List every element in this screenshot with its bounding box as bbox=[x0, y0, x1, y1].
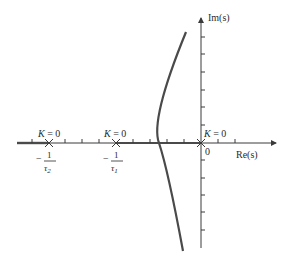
imag-axis-label: Im(s) bbox=[208, 12, 230, 24]
svg-text:τ1: τ1 bbox=[111, 163, 118, 175]
svg-text:1: 1 bbox=[114, 150, 119, 160]
origin-label: 0 bbox=[205, 146, 210, 157]
pole-label-tau2: − 1 τ2 bbox=[36, 150, 56, 175]
root-locus-diagram: K = 0 K = 0 K = 0 − 1 τ2 − 1 τ1 0 Re(s) … bbox=[0, 0, 288, 263]
k-label-origin: K = 0 bbox=[203, 128, 226, 139]
real-axis-label: Re(s) bbox=[236, 149, 258, 161]
svg-text:τ2: τ2 bbox=[44, 163, 51, 175]
svg-text:−: − bbox=[103, 153, 109, 164]
svg-text:−: − bbox=[36, 153, 42, 164]
k-label-tau1: K = 0 bbox=[103, 128, 126, 139]
svg-text:1: 1 bbox=[47, 150, 52, 160]
real-axis bbox=[17, 139, 276, 143]
pole-label-tau1: − 1 τ1 bbox=[103, 150, 123, 175]
root-locus-curve bbox=[157, 32, 186, 251]
k-label-tau2: K = 0 bbox=[37, 128, 60, 139]
